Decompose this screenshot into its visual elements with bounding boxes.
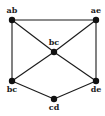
node-de: de [91,78,102,94]
edge-ae-bc [54,20,96,52]
nodes: abaebcbcdecd [7,5,102,112]
node-dot [93,17,99,23]
node-dot [51,49,57,55]
edges [12,20,96,99]
node-label: ab [7,5,18,15]
edge-bc-bc [12,52,54,81]
edge-bc-cd [12,81,54,99]
node-dot [9,17,15,23]
edge-ab-bc [12,20,54,52]
node-bc: bc [49,37,60,55]
node-label: cd [49,102,60,112]
node-label: ae [91,5,101,15]
edge-bc-de [54,52,96,81]
graph-diagram: abaebcbcdecd [0,0,105,116]
node-label: bc [7,84,18,94]
node-bc: bc [7,78,18,94]
node-label: bc [49,37,60,47]
node-label: de [91,84,102,94]
node-cd: cd [49,96,60,112]
